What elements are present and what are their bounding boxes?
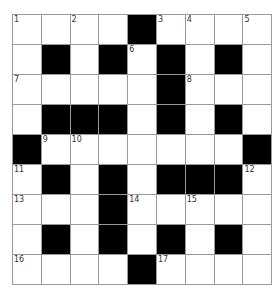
crossword-cell[interactable] [215,195,244,225]
crossword-cell[interactable]: 16 [13,255,42,285]
crossword-cell[interactable]: 8 [186,75,215,105]
clue-number: 1 [14,15,19,24]
crossword-cell[interactable] [42,75,71,105]
crossword-cell[interactable] [99,15,128,45]
crossword-cell[interactable]: 17 [157,255,186,285]
crossword-cell[interactable]: 15 [186,195,215,225]
crossword-cell[interactable] [71,255,100,285]
crossword-cell[interactable] [215,135,244,165]
black-square [186,165,215,195]
clue-number: 10 [72,135,82,144]
crossword-cell[interactable] [215,15,244,45]
crossword-cell[interactable] [71,165,100,195]
clue-number: 16 [14,255,24,264]
crossword-cell[interactable] [186,45,215,75]
black-square [157,165,186,195]
black-square [99,225,128,255]
crossword-cell[interactable] [157,195,186,225]
crossword-cell[interactable] [215,255,244,285]
crossword-cell[interactable] [71,225,100,255]
crossword-cell[interactable]: 9 [42,135,71,165]
crossword-cell[interactable] [128,225,157,255]
clue-number: 11 [14,165,24,174]
crossword-cell[interactable] [13,105,42,135]
clue-number: 2 [72,15,77,24]
crossword-cell[interactable] [13,45,42,75]
clue-number: 3 [158,15,163,24]
clue-number: 6 [129,45,134,54]
crossword-grid: 1234567891011121314151617 [12,14,272,285]
black-square [99,195,128,225]
black-square [42,105,71,135]
clue-number: 8 [187,75,192,84]
black-square [99,105,128,135]
crossword-cell[interactable] [243,75,272,105]
crossword-cell[interactable]: 12 [243,165,272,195]
black-square [71,105,100,135]
black-square [99,45,128,75]
crossword-cell[interactable]: 14 [128,195,157,225]
black-square [215,45,244,75]
crossword-cell[interactable] [99,135,128,165]
crossword-cell[interactable] [128,135,157,165]
black-square [157,105,186,135]
crossword-cell[interactable]: 6 [128,45,157,75]
black-square [215,225,244,255]
crossword-cell[interactable] [71,75,100,105]
black-square [128,15,157,45]
crossword-cell[interactable] [99,75,128,105]
black-square [243,135,272,165]
clue-number: 5 [244,15,249,24]
clue-number: 7 [14,75,19,84]
clue-number: 15 [187,195,197,204]
crossword-cell[interactable] [128,105,157,135]
crossword-cell[interactable] [42,195,71,225]
clue-number: 14 [129,195,139,204]
black-square [215,105,244,135]
crossword-cell[interactable]: 2 [71,15,100,45]
crossword-cell[interactable] [42,15,71,45]
black-square [215,165,244,195]
black-square [157,45,186,75]
crossword-cell[interactable] [71,45,100,75]
black-square [42,225,71,255]
black-square [157,225,186,255]
black-square [42,165,71,195]
crossword-cell[interactable] [42,255,71,285]
black-square [42,45,71,75]
crossword-cell[interactable]: 10 [71,135,100,165]
crossword-cell[interactable] [243,255,272,285]
clue-number: 13 [14,195,24,204]
black-square [13,135,42,165]
crossword-cell[interactable]: 5 [243,15,272,45]
black-square [128,255,157,285]
crossword-cell[interactable]: 7 [13,75,42,105]
clue-number: 9 [43,135,48,144]
black-square [99,165,128,195]
crossword-cell[interactable] [243,225,272,255]
crossword-cell[interactable] [186,135,215,165]
crossword-cell[interactable]: 13 [13,195,42,225]
clue-number: 17 [158,255,168,264]
black-square [157,75,186,105]
clue-number: 12 [244,165,254,174]
clue-number: 4 [187,15,192,24]
crossword-cell[interactable] [157,135,186,165]
crossword-cell[interactable] [71,195,100,225]
crossword-cell[interactable] [186,255,215,285]
crossword-cell[interactable] [99,255,128,285]
crossword-cell[interactable] [13,225,42,255]
crossword-cell[interactable] [186,225,215,255]
crossword-cell[interactable] [243,105,272,135]
crossword-cell[interactable]: 4 [186,15,215,45]
crossword-cell[interactable] [186,105,215,135]
crossword-cell[interactable] [243,45,272,75]
crossword-cell[interactable]: 1 [13,15,42,45]
crossword-cell[interactable] [215,75,244,105]
crossword-cell[interactable]: 11 [13,165,42,195]
crossword-cell[interactable] [128,165,157,195]
crossword-cell[interactable] [128,75,157,105]
crossword-cell[interactable] [243,195,272,225]
crossword-cell[interactable]: 3 [157,15,186,45]
